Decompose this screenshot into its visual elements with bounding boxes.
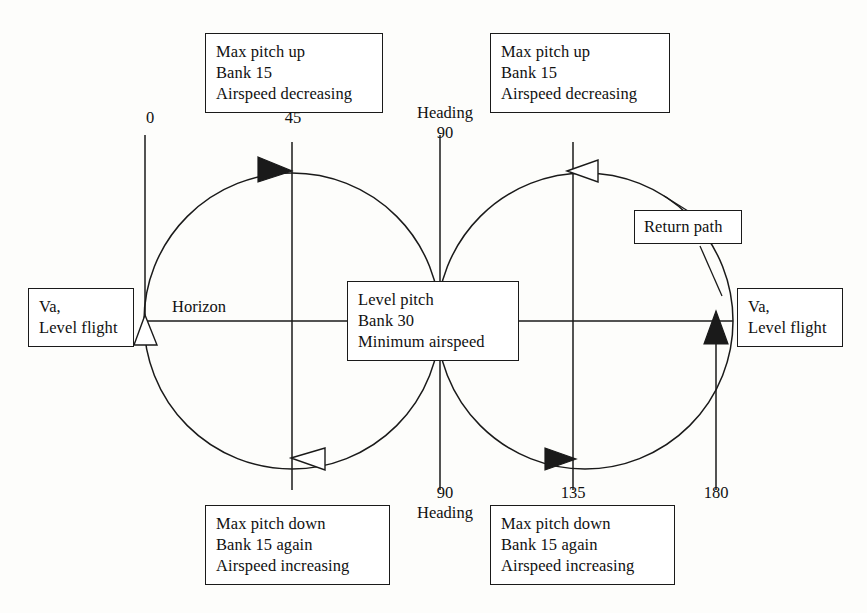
note-box-top-left: Max pitch up Bank 15 Airspeed decreasing xyxy=(205,33,383,113)
arrowhead-left-circle-left xyxy=(134,315,157,345)
label-heading-0: 0 xyxy=(140,108,160,128)
return-path-leader-lower xyxy=(700,246,722,296)
arrowhead-left-circle-bottom xyxy=(291,448,325,470)
diagram-canvas: Max pitch up Bank 15 Airspeed decreasing… xyxy=(0,0,867,613)
label-heading-180: 180 xyxy=(700,483,732,503)
note-box-center: Level pitch Bank 30 Minimum airspeed xyxy=(347,281,519,361)
note-box-top-right: Max pitch up Bank 15 Airspeed decreasing xyxy=(490,33,670,113)
note-box-right-va: Va, Level flight xyxy=(737,288,843,347)
label-heading-90-top: Heading 90 xyxy=(412,103,478,143)
label-horizon: Horizon xyxy=(172,297,226,317)
arrowhead-right-circle-right xyxy=(704,311,728,344)
label-heading-90-bottom: 90 Heading xyxy=(412,483,478,523)
arrowhead-right-circle-top xyxy=(567,160,598,182)
label-heading-45: 45 xyxy=(280,108,306,128)
arrowhead-left-circle-top xyxy=(258,157,292,182)
note-box-bottom-right: Max pitch down Bank 15 again Airspeed in… xyxy=(490,505,675,585)
return-path-leader-upper xyxy=(664,196,688,211)
note-box-return-path: Return path xyxy=(634,210,742,244)
note-box-left-va: Va, Level flight xyxy=(28,288,134,347)
note-box-bottom-left: Max pitch down Bank 15 again Airspeed in… xyxy=(205,505,390,585)
label-heading-135: 135 xyxy=(557,483,589,503)
